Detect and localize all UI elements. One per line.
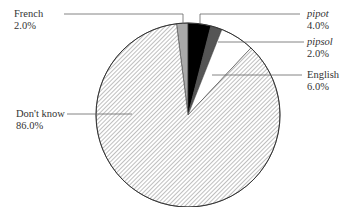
pie-chart: [0, 0, 357, 207]
label-pipot: pipot 4.0%: [307, 8, 329, 32]
label-pipsol-name: pipsol: [307, 36, 333, 48]
pie-slices: [96, 23, 280, 207]
label-dontknow: Don't know 86.0%: [16, 108, 65, 132]
label-pipot-name: pipot: [307, 8, 329, 20]
label-pipot-pct: 4.0%: [307, 20, 329, 32]
label-english: English 6.0%: [307, 69, 339, 93]
leader-line-pipot: [200, 14, 300, 24]
label-english-name: English: [307, 69, 339, 81]
label-dontknow-pct: 86.0%: [16, 120, 65, 132]
label-pipsol-pct: 2.0%: [307, 48, 333, 60]
label-french: French 2.0%: [14, 8, 43, 32]
label-english-pct: 6.0%: [307, 81, 339, 93]
leader-line-french: [64, 14, 183, 24]
label-french-pct: 2.0%: [14, 20, 43, 32]
label-pipsol: pipsol 2.0%: [307, 36, 333, 60]
label-french-name: French: [14, 8, 43, 20]
label-dontknow-name: Don't know: [16, 108, 65, 120]
